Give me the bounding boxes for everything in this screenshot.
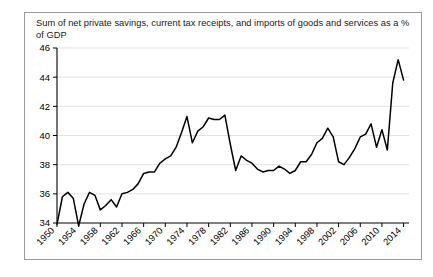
y-tick-label: 38 bbox=[39, 159, 50, 170]
chart-container: Sum of net private savings, current tax … bbox=[24, 12, 422, 260]
y-tick-label: 44 bbox=[39, 72, 50, 83]
y-tick-label: 46 bbox=[39, 42, 50, 53]
x-tick-label: 1962 bbox=[100, 225, 122, 247]
x-tick-label: 1954 bbox=[56, 225, 78, 247]
y-tick-label: 40 bbox=[39, 130, 50, 141]
x-tick-label: 1950 bbox=[35, 225, 57, 247]
x-tick-label: 1966 bbox=[121, 225, 143, 247]
y-tick-label: 36 bbox=[39, 188, 50, 199]
y-axis: 34363840424446 bbox=[39, 42, 57, 228]
x-tick-label: 2014 bbox=[381, 225, 403, 247]
line-chart-plot: 34363840424446 1950195419581962196619701… bbox=[25, 13, 421, 259]
x-tick-label: 1978 bbox=[186, 225, 208, 247]
y-tick-label: 42 bbox=[39, 101, 50, 112]
x-tick-label: 1994 bbox=[273, 225, 295, 247]
x-axis: 1950195419581962196619701974197819821986… bbox=[35, 223, 409, 247]
x-tick-label: 1998 bbox=[295, 225, 317, 247]
x-tick-label: 1970 bbox=[143, 225, 165, 247]
x-tick-label: 1958 bbox=[78, 225, 100, 247]
x-tick-label: 1990 bbox=[251, 225, 273, 247]
gridlines-group bbox=[57, 48, 409, 194]
x-tick-label: 1982 bbox=[208, 225, 230, 247]
x-tick-label: 1974 bbox=[165, 225, 187, 247]
data-series-line bbox=[57, 60, 404, 226]
x-tick-label: 2006 bbox=[338, 225, 360, 247]
x-tick-label: 2002 bbox=[316, 225, 338, 247]
x-tick-label: 2010 bbox=[360, 225, 382, 247]
x-tick-label: 1986 bbox=[230, 225, 252, 247]
